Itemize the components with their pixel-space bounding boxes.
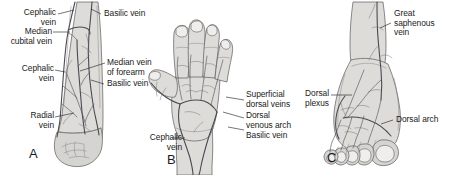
label-great-saphenous-vein: Great saphenous vein bbox=[394, 9, 452, 38]
nail-middle bbox=[191, 21, 203, 32]
nail-index bbox=[176, 26, 188, 37]
label-median-vein-of-forearm: Median vein of forearm bbox=[107, 58, 171, 77]
label-basilic-vein-b: Basilic vein bbox=[246, 131, 306, 141]
panel-letter-b: B bbox=[167, 152, 176, 167]
panel-letter-a: A bbox=[29, 146, 38, 161]
foot-shape bbox=[334, 58, 401, 153]
nail-ring bbox=[207, 25, 217, 36]
label-median-cubital-vein: Median cubital vein bbox=[0, 27, 52, 46]
panel-a-artwork bbox=[54, 2, 103, 167]
anatomy-figure: Cephalic vein Median cubital vein Cephal… bbox=[0, 0, 455, 175]
label-cephalic-vein-b: Cephalic vein bbox=[130, 133, 182, 152]
label-dorsal-arch: Dorsal arch bbox=[396, 115, 454, 125]
label-cephalic-vein-lower: Cephalic vein bbox=[4, 64, 54, 83]
leader-superficial-dorsal bbox=[226, 97, 244, 100]
label-radial-vein: Radial vein bbox=[4, 111, 54, 130]
panel-c-artwork bbox=[324, 2, 400, 166]
leader-dorsal-venous-arch bbox=[223, 112, 244, 118]
panel-letter-c: C bbox=[327, 150, 336, 165]
leader-basilic-b bbox=[228, 127, 244, 130]
fist-shape bbox=[54, 128, 102, 167]
label-dorsal-venous-arch: Dorsal venous arch bbox=[246, 111, 312, 130]
label-dorsal-plexus: Dorsal plexus bbox=[283, 89, 329, 108]
label-cephalic-vein-upper: Cephalic vein bbox=[4, 8, 56, 27]
label-basilic-vein-lower: Basilic vein bbox=[107, 79, 167, 89]
leader-cephalic-upper bbox=[58, 10, 74, 14]
nail-toe-big bbox=[376, 145, 394, 162]
illustration-canvas bbox=[0, 0, 455, 175]
label-basilic-vein-upper: Basilic vein bbox=[104, 9, 164, 19]
